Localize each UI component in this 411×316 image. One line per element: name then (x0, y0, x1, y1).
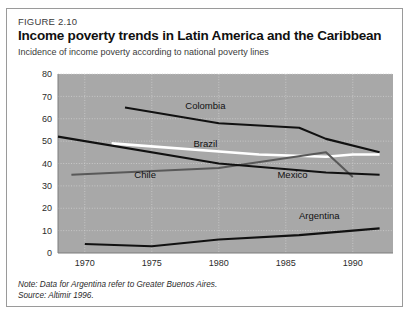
x-tick-label: 1990 (343, 258, 363, 268)
y-tick-label: 70 (42, 92, 52, 102)
series-label-chile: Chile (134, 169, 156, 180)
y-tick-label: 40 (42, 159, 52, 169)
series-label-mexico: Mexico (277, 169, 307, 180)
y-tick-label: 20 (42, 203, 52, 213)
x-tick-label: 1985 (276, 258, 296, 268)
y-tick-label: 10 (42, 226, 52, 236)
series-label-colombia: Colombia (185, 100, 226, 111)
figure-container: FIGURE 2.10 Income poverty trends in Lat… (6, 8, 403, 307)
y-tick-label: 80 (42, 69, 52, 79)
figure-note: Note: Data for Argentina refer to Greate… (18, 280, 217, 289)
line-chart-svg: 01020304050607080 19701975198019851990 C… (7, 9, 404, 308)
y-tick-label: 60 (42, 114, 52, 124)
series-label-argentina: Argentina (299, 210, 340, 221)
chart-plot-area: 01020304050607080 19701975198019851990 C… (7, 9, 404, 308)
figure-source: Source: Altimir 1996. (18, 291, 94, 300)
y-tick-label: 50 (42, 136, 52, 146)
x-axis-tick-labels: 19701975198019851990 (75, 258, 363, 268)
y-tick-label: 0 (47, 248, 52, 258)
x-tick-label: 1970 (75, 258, 95, 268)
y-axis-tick-labels: 01020304050607080 (42, 69, 52, 258)
x-tick-label: 1975 (142, 258, 162, 268)
series-label-brazil: Brazil (194, 138, 218, 149)
y-tick-label: 30 (42, 181, 52, 191)
x-tick-label: 1980 (209, 258, 229, 268)
